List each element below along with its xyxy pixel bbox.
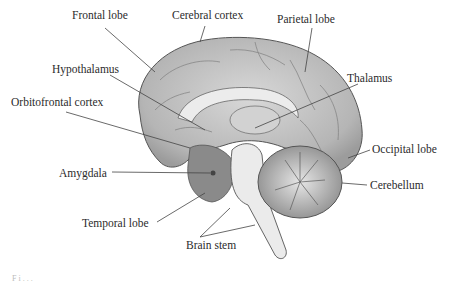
label-frontal-lobe: Frontal lobe — [72, 10, 128, 22]
label-parietal-lobe: Parietal lobe — [277, 14, 335, 26]
thalamus-region — [230, 106, 280, 134]
brain-diagram: Frontal lobe Cerebral cortex Parietal lo… — [0, 0, 450, 283]
label-cerebral-cortex: Cerebral cortex — [172, 10, 243, 22]
label-cerebellum: Cerebellum — [370, 180, 424, 192]
label-orbitofrontal-cortex: Orbitofrontal cortex — [11, 97, 103, 109]
label-temporal-lobe: Temporal lobe — [82, 218, 149, 230]
label-brain-stem: Brain stem — [186, 240, 236, 252]
label-hypothalamus: Hypothalamus — [52, 64, 119, 76]
label-thalamus: Thalamus — [347, 73, 392, 85]
label-occipital-lobe: Occipital lobe — [372, 144, 437, 156]
figure-caption-fragment: Fi... — [12, 274, 35, 283]
amygdala-spot — [211, 171, 216, 176]
label-amygdala: Amygdala — [59, 168, 107, 180]
